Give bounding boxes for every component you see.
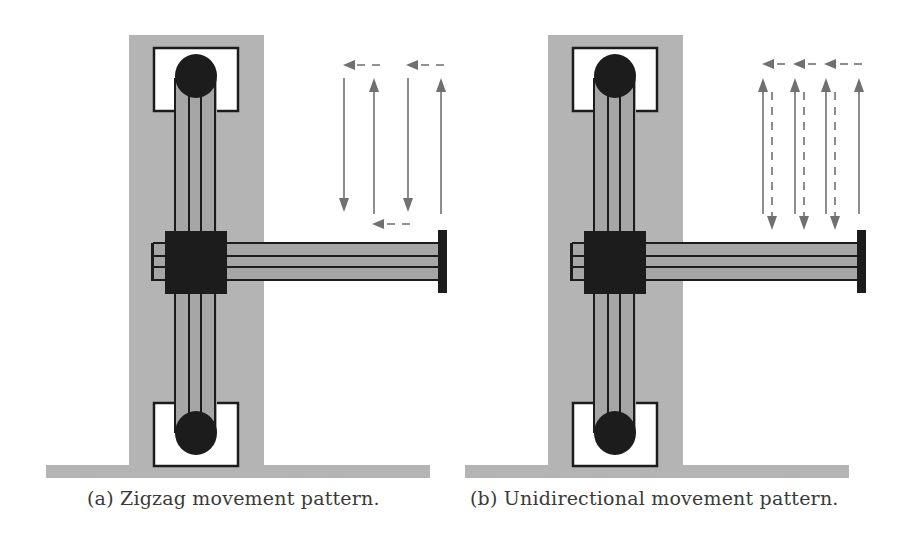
unidirectional-panel: (b) Unidirectional movement pattern.: [0, 0, 907, 535]
gantry-diagram-unidirectional: [0, 0, 907, 535]
carriage-block: [584, 231, 646, 294]
arrow-down-icon: [799, 216, 809, 230]
bottom-pulley: [594, 411, 636, 455]
arrow-down-icon: [830, 216, 840, 230]
arrow-left-icon: [793, 59, 805, 69]
arrow-up-icon: [821, 78, 831, 92]
arrow-up-icon: [758, 78, 768, 92]
top-pulley: [594, 54, 636, 98]
arm-end-left: [570, 243, 573, 281]
caption-unidirectional: (b) Unidirectional movement pattern.: [470, 487, 839, 509]
movement-arrows: [758, 59, 864, 230]
end-effector: [857, 230, 866, 293]
gantry: [465, 35, 866, 478]
arrow-down-icon: [767, 216, 777, 230]
arrow-up-icon: [790, 78, 800, 92]
arrow-left-icon: [762, 59, 774, 69]
arrow-left-icon: [824, 59, 836, 69]
arrow-up-icon: [854, 78, 864, 92]
